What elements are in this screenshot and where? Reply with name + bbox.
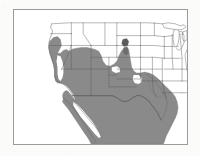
north-america-range-map (14, 10, 187, 144)
map-frame (13, 9, 188, 145)
range-map-figure (0, 0, 200, 156)
